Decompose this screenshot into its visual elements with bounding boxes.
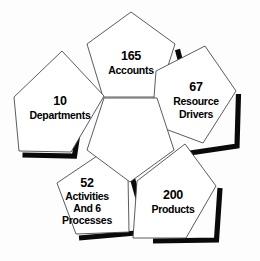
departments-count: 10 xyxy=(53,94,67,108)
rosette-canvas: 165 Accounts 67 Resource Drivers 200 Pro… xyxy=(0,0,260,261)
activities-processes-line-1: Activities xyxy=(65,190,109,202)
products-line-1: Products xyxy=(151,203,195,215)
accounts-count: 165 xyxy=(121,49,141,63)
resource-drivers-count: 67 xyxy=(189,80,203,94)
departments-line-1: Departments xyxy=(30,109,91,121)
activities-processes-line-2: And 6 xyxy=(73,202,101,214)
activities-processes-count: 52 xyxy=(80,176,94,190)
resource-drivers-line-2: Drivers xyxy=(179,108,214,120)
pentagon-rosette-diagram: 165 Accounts 67 Resource Drivers 200 Pro… xyxy=(0,0,260,261)
accounts-line-1: Accounts xyxy=(108,64,154,76)
activities-processes-line-3: Processes xyxy=(62,214,112,226)
products-count: 200 xyxy=(163,188,183,202)
resource-drivers-line-1: Resource xyxy=(173,95,219,107)
